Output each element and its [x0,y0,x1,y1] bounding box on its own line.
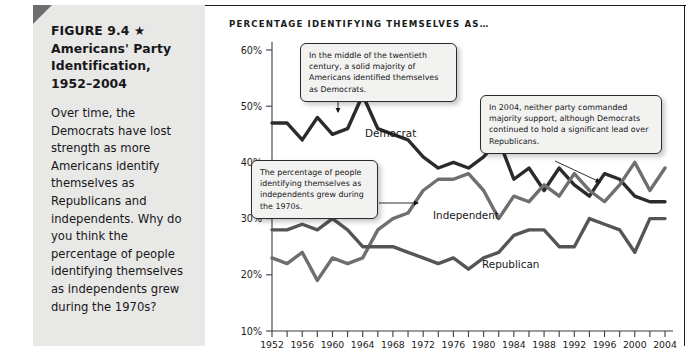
y-axis-tick-label: 20% [241,269,262,280]
x-axis-tick-label: 2004 [653,339,677,350]
figure-description: Over time, the Democrats have lost stren… [51,105,189,316]
callout-democrat: In the middle of the twentieth century, … [300,43,457,102]
x-axis-tick-label: 1976 [442,339,466,350]
x-axis-tick-label: 1980 [472,339,496,350]
series-label-democrat: Democrat [365,127,416,139]
y-axis-tick-label: 10% [241,326,262,337]
x-axis-tick-label: 1972 [411,339,435,350]
callout-year-2004: In 2004, neither party commanded majorit… [480,95,662,154]
chart-panel: PERCENTAGE IDENTIFYING THEMSELVES AS… 10… [205,0,694,351]
x-axis-tick-label: 1956 [290,339,314,350]
series-label-independent: Independent [433,209,499,221]
series-label-republican: Republican [482,258,539,270]
y-axis-tick-label: 50% [241,101,262,112]
x-axis-tick-label: 1968 [381,339,405,350]
x-axis-tick-label: 2000 [623,339,647,350]
x-axis-tick-label: 1952 [260,339,284,350]
x-axis-tick-label: 1988 [532,339,556,350]
x-axis-tick-label: 1992 [562,339,586,350]
figure-title-line-4: 1952–2004 [51,76,127,91]
y-axis-tick-label: 60% [241,45,262,56]
x-axis-tick-label: 1960 [321,339,345,350]
corner-fold-decoration [33,5,52,24]
callout-independent: The percentage of people identifying the… [251,160,378,219]
figure-title: FIGURE 9.4 ★ Americans' Party Identifica… [51,22,189,92]
x-axis: 1952195619601964196819721976198019841988… [260,331,677,350]
figure-container: FIGURE 9.4 ★ Americans' Party Identifica… [0,0,694,351]
x-axis-tick-label: 1996 [593,339,617,350]
figure-title-line-3: Identification, [51,58,151,73]
x-axis-tick-label: 1984 [502,339,526,350]
x-axis-tick-label: 1964 [351,339,375,350]
figure-caption-panel: FIGURE 9.4 ★ Americans' Party Identifica… [33,5,205,346]
figure-title-line-1: FIGURE 9.4 ★ [51,23,145,38]
figure-title-line-2: Americans' Party [51,41,171,56]
